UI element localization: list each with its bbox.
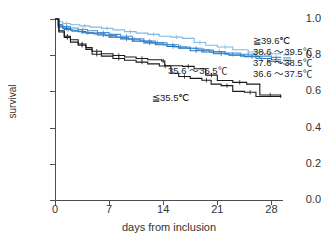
- survival-curve-1: [55, 19, 281, 58]
- legend-item-3: 36.6 ～37.5℃: [253, 69, 313, 80]
- annotation-le-35-5: ≦35.5℃: [152, 92, 190, 103]
- legend-item-2: 37.6 ～38.5℃: [253, 58, 313, 69]
- legend-item-0: ≧39.6℃: [253, 36, 291, 47]
- annotation-35-6-to-36-5: 35.6 ～36.5℃: [168, 63, 228, 77]
- legend-item-1: 38.6 ～39.5℃: [253, 47, 313, 58]
- survival-chart-figure: survival days from inclusion 0.00.20.40.…: [0, 0, 321, 241]
